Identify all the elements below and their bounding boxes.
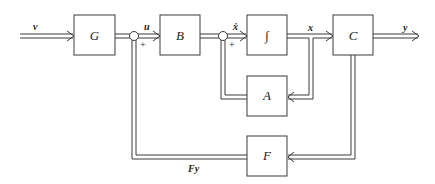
sum2-plus-sign: +	[229, 39, 235, 50]
signal-y-label: y	[402, 22, 408, 33]
sum1-plus-sign: +	[140, 39, 146, 50]
diagram-canvas: G B ∫ C A F v u ẋ x y Fy + +	[0, 0, 435, 184]
block-c-label: C	[349, 28, 358, 43]
signal-v-label: v	[33, 21, 38, 32]
wire-output	[373, 31, 419, 41]
summing-junction-2	[219, 32, 228, 41]
wire-g-to-sum1	[115, 34, 130, 38]
wire-input	[20, 31, 74, 41]
block-b-label: B	[176, 28, 184, 43]
wire-b-to-sum2	[200, 34, 219, 38]
block-f-label: F	[262, 148, 272, 163]
block-g-label: G	[90, 28, 100, 43]
signal-u-label: u	[144, 21, 150, 32]
signal-xdot-label: ẋ	[232, 21, 238, 32]
summing-junction-1	[130, 32, 139, 41]
signal-fy-label: Fy	[187, 163, 200, 174]
block-diagram: G B ∫ C A F v u ẋ x y Fy + +	[0, 0, 435, 184]
wire-c-to-f	[288, 55, 355, 162]
signal-x-label: x	[307, 22, 313, 33]
wire-x	[287, 31, 333, 102]
block-a-label: A	[262, 88, 271, 103]
